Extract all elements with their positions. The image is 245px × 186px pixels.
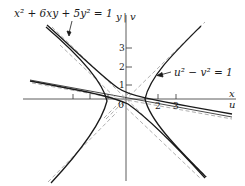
v-tick-label-1: 1: [119, 80, 125, 90]
axis-label-y: y: [115, 11, 122, 22]
v-tick-label-2: 2: [119, 62, 125, 72]
arrow-xy-head: [67, 31, 71, 36]
u-tick-label-2: 2: [155, 101, 161, 111]
v-tick-label-3: 3: [119, 43, 125, 53]
hyperbola-rotation-diagram: x² + 6xy + 5y² = 1 u² − v² = 1 y | v x u…: [0, 0, 245, 186]
axis-label-u: u: [229, 99, 235, 110]
axis-separator: |: [124, 12, 127, 23]
u-tick-label-3: 3: [173, 101, 179, 111]
arrow-xy-label: [69, 21, 72, 33]
rotated-axis: [30, 80, 232, 117]
hyperbola-xy-lower-branch: [30, 81, 205, 178]
asymptote-xy-4: [48, 112, 117, 182]
axis-label-x: x: [229, 88, 235, 99]
equation-xy-label: x² + 6xy + 5y² = 1: [14, 7, 113, 19]
origin-label: 0: [118, 99, 124, 110]
asymptote-v-eq-neg-u: [60, 45, 200, 178]
asymptotes: [32, 22, 232, 182]
equation-uv-label: u² − v² = 1: [174, 66, 233, 78]
axis-label-v: v: [130, 11, 136, 22]
